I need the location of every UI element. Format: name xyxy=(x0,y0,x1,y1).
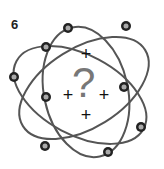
proton-plus-bottom: + xyxy=(79,106,93,124)
electron xyxy=(103,147,113,157)
electron xyxy=(63,23,73,33)
proton-plus-top: + xyxy=(79,45,93,63)
proton-plus-right: + xyxy=(97,86,111,104)
electron xyxy=(121,21,131,31)
proton-plus-left: + xyxy=(61,86,75,104)
electron xyxy=(41,92,51,102)
electron xyxy=(119,82,129,92)
electron xyxy=(41,42,51,52)
electron xyxy=(9,72,19,82)
electron xyxy=(136,122,146,132)
diagram-number-label: 6 xyxy=(11,17,18,32)
nucleus-question-mark: ? xyxy=(72,62,95,104)
electron xyxy=(40,141,50,151)
